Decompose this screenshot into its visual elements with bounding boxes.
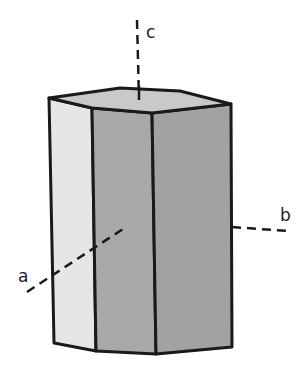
b-axis: [232, 227, 288, 231]
axis-label-b: b: [280, 205, 291, 225]
axis-label-c: c: [146, 22, 155, 42]
crystal-diagram: c a b: [0, 0, 308, 371]
right-face: [152, 104, 232, 354]
front-face: [92, 108, 156, 354]
left-face: [49, 98, 96, 351]
axis-label-a: a: [18, 266, 28, 286]
